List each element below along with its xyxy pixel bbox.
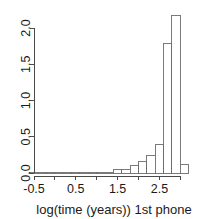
- x-axis-ticks: [34, 176, 180, 180]
- x-axis-tick-label: 2.5: [151, 182, 168, 196]
- histogram-bar: [63, 172, 71, 173]
- y-axis-tick-label: 1.5: [19, 56, 33, 73]
- histogram-bar: [155, 145, 163, 173]
- histogram-bar: [130, 166, 138, 173]
- y-axis-tick-label: 0.5: [19, 128, 33, 145]
- histogram-bar: [88, 172, 96, 173]
- histogram-bar: [80, 172, 88, 173]
- histogram-bar: [105, 172, 113, 173]
- y-axis-tick-label: 0.0: [19, 164, 33, 181]
- histogram-bar: [55, 172, 63, 173]
- histogram-svg: -0.50.51.52.5 0.00.51.01.52.0 log(time (…: [0, 0, 198, 219]
- histogram-bar: [113, 169, 121, 173]
- y-axis-tick-label: 1.0: [19, 92, 33, 109]
- histogram-bar: [47, 172, 55, 173]
- histogram-plot: -0.50.51.52.5 0.00.51.01.52.0 log(time (…: [0, 0, 198, 219]
- x-axis-tick-labels: -0.50.51.52.5: [23, 182, 168, 196]
- histogram-bar: [139, 161, 147, 173]
- histogram-bar: [147, 156, 155, 173]
- x-axis-tick-label: 1.5: [109, 182, 126, 196]
- histogram-bar: [122, 169, 130, 173]
- histogram-bar: [164, 43, 172, 173]
- histogram-bars: [30, 16, 189, 173]
- histogram-bar: [172, 16, 180, 173]
- histogram-bar: [97, 172, 105, 173]
- histogram-bar: [38, 172, 46, 173]
- histogram-bar: [72, 172, 80, 173]
- y-axis-tick-label: 2.0: [19, 19, 33, 36]
- histogram-bar: [180, 164, 188, 173]
- x-axis-title: log(time (years)) 1st phone: [36, 202, 191, 217]
- y-axis-tick-labels: 0.00.51.01.52.0: [19, 19, 33, 181]
- x-axis-tick-label: -0.5: [23, 182, 45, 196]
- x-axis-tick-label: 0.5: [67, 182, 84, 196]
